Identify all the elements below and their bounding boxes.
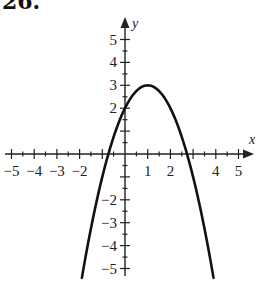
x-tick-label: −3 <box>49 163 65 179</box>
x-tick-label: 5 <box>235 163 243 179</box>
x-axis-label: x <box>248 132 256 147</box>
y-tick-label: −4 <box>101 238 117 254</box>
x-tick-label: 4 <box>212 163 220 179</box>
parabola-graph: −5 −4 −3 −2 1 2 4 5 5 4 3 2 −2 −3 −4 −5 … <box>0 0 260 293</box>
y-tick-label: 4 <box>110 54 118 70</box>
y-axis-label: y <box>130 16 139 31</box>
y-tick-label: 3 <box>110 77 118 93</box>
y-tick-label: 5 <box>110 32 118 48</box>
x-tick-label: −4 <box>26 163 42 179</box>
x-tick-label: −5 <box>4 163 20 179</box>
y-tick-label: 2 <box>110 100 118 116</box>
y-tick-label: −5 <box>101 261 117 277</box>
y-tick-label: −3 <box>101 215 117 231</box>
x-axis-arrow-icon <box>243 150 254 159</box>
y-tick-label: −2 <box>101 192 117 208</box>
y-axis-arrow-icon <box>121 17 130 28</box>
x-tick-label: −2 <box>72 163 88 179</box>
x-tick-label: 2 <box>167 163 175 179</box>
x-tick-label: 1 <box>144 163 152 179</box>
